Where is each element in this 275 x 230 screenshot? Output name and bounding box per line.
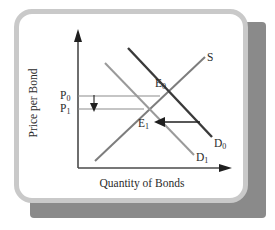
y-axis-title: Price per Bond <box>27 48 39 158</box>
equilibrium-new-letter: E <box>138 117 145 129</box>
equilibrium-initial-subscript: 0 <box>162 82 166 91</box>
price-new-label: P1 <box>60 102 70 114</box>
price-initial-label: P0 <box>60 89 70 101</box>
supply-demand-svg <box>14 9 248 203</box>
demand-initial-label: D0 <box>214 137 226 149</box>
equilibrium-new-label: E1 <box>138 117 149 129</box>
plot-area: Price per Bond Quantity of Bonds S D0 D1… <box>14 9 248 203</box>
x-axis <box>78 164 232 172</box>
x-axis-title: Quantity of Bonds <box>72 177 212 189</box>
demand-new-subscript: 1 <box>204 156 208 165</box>
demand-new-label: D1 <box>196 151 208 163</box>
y-axis <box>74 29 82 168</box>
demand-initial-subscript: 0 <box>222 142 226 151</box>
figure-screenshot: Price per Bond Quantity of Bonds S D0 D1… <box>0 0 275 230</box>
supply-curve-label: S <box>207 51 213 63</box>
equilibrium-new-subscript: 1 <box>145 122 149 131</box>
equilibrium-initial-letter: E <box>155 77 162 89</box>
price-new-subscript: 1 <box>66 107 70 116</box>
equilibrium-initial-label: E0 <box>155 77 166 89</box>
